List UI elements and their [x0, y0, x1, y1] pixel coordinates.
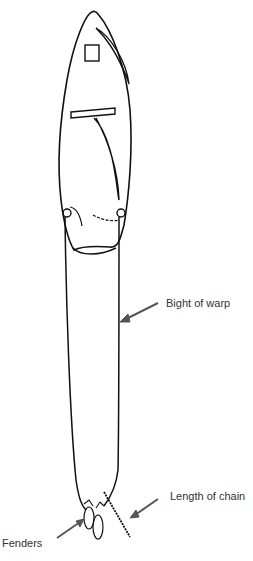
hull-outline [59, 11, 131, 250]
fender-ties [84, 500, 104, 508]
arrow-bight-of-warp [120, 303, 158, 322]
boom-bar [71, 108, 115, 118]
label-fenders: Fenders [2, 537, 42, 549]
cockpit-curve [94, 118, 119, 200]
cross-line [93, 215, 119, 221]
warp-left [65, 217, 86, 510]
forward-hatch [85, 45, 99, 61]
label-length-of-chain: Length of chain [170, 490, 245, 502]
chain [104, 492, 130, 537]
arrow-length-of-chain [130, 499, 158, 518]
warp-right [104, 217, 119, 506]
arrow-fenders [57, 519, 84, 538]
label-bight-of-warp: Bight of warp [166, 297, 230, 309]
boat-diagram [0, 0, 253, 561]
port-line-stub [70, 207, 82, 226]
cleat-starboard [117, 209, 125, 217]
fender-2 [93, 515, 103, 539]
cleat-port [63, 209, 71, 217]
